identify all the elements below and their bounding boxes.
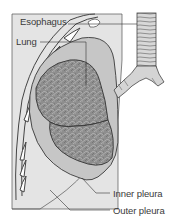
lung-diagram: Esophagus Lung Inner pleura Outer pleura (0, 0, 179, 219)
trachea (137, 13, 156, 69)
lung-illustration (0, 0, 179, 219)
inner-pleura-label: Inner pleura (113, 189, 163, 199)
esophagus-label: Esophagus (20, 17, 67, 27)
lung-label: Lung (16, 37, 37, 47)
outer-pleura-label: Outer pleura (113, 206, 165, 216)
